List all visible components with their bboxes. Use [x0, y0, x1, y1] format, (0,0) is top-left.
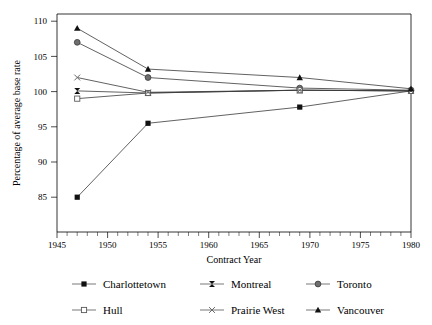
- y-tick-label: 105: [34, 52, 48, 62]
- chart-figure: 110 105 100 95 90 85: [0, 0, 432, 325]
- data-point-open-square: [75, 96, 80, 101]
- series-charlottetown: [75, 88, 414, 200]
- chart-legend: CharlottetownMontrealTorontoHullPrairie …: [72, 278, 384, 316]
- data-point-filled-triangle: [74, 25, 80, 31]
- data-point-filled-square: [297, 104, 302, 109]
- legend-label: Toronto: [337, 278, 372, 290]
- data-point-filled-square: [75, 195, 80, 200]
- x-tick-label: 1975: [351, 240, 370, 250]
- series-toronto: [74, 39, 414, 93]
- x-axis-tick-labels: 1945 1950 1955 1960 1965 1970 1975 1980: [48, 240, 421, 250]
- x-axis-ticks: [57, 232, 411, 238]
- x-tick-label: 1960: [200, 240, 219, 250]
- legend-label: Vancouver: [337, 304, 384, 316]
- data-point-filled-square: [145, 121, 150, 126]
- y-tick-label: 100: [34, 87, 48, 97]
- legend-label: Charlottetown: [103, 278, 166, 290]
- x-tick-label: 1950: [99, 240, 118, 250]
- y-axis-tick-labels: 110 105 100 95 90 85: [34, 16, 48, 202]
- x-tick-label: 1965: [250, 240, 269, 250]
- y-axis-ticks: [51, 21, 57, 197]
- x-tick-label: 1980: [402, 240, 421, 250]
- legend-item-hull[interactable]: Hull: [72, 304, 123, 316]
- data-point-filled-circle: [315, 281, 321, 287]
- data-point-filled-circle: [145, 75, 151, 81]
- data-point-x-cross: [74, 75, 80, 81]
- y-tick-label: 95: [38, 122, 48, 132]
- series-layer: [74, 25, 414, 200]
- data-point-open-square: [81, 307, 86, 312]
- line-chart: 110 105 100 95 90 85: [0, 0, 432, 325]
- legend-label: Prairie West: [231, 304, 285, 316]
- legend-item-charlottetown[interactable]: Charlottetown: [72, 278, 166, 290]
- series-vancouver: [74, 25, 414, 91]
- data-point-filled-circle: [74, 39, 80, 45]
- x-tick-label: 1955: [149, 240, 168, 250]
- plot-axes: [57, 14, 411, 232]
- x-tick-label: 1945: [48, 240, 67, 250]
- legend-item-toronto[interactable]: Toronto: [306, 278, 372, 290]
- y-tick-label: 110: [34, 16, 48, 26]
- x-axis-title: Contract Year: [207, 254, 263, 265]
- y-tick-label: 85: [38, 192, 48, 202]
- legend-item-prairie-west[interactable]: Prairie West: [200, 304, 285, 316]
- legend-item-montreal[interactable]: Montreal: [200, 278, 271, 290]
- y-tick-label: 90: [38, 157, 48, 167]
- y-axis-title: Percentage of average base rate: [11, 59, 22, 186]
- data-point-filled-triangle: [145, 66, 151, 72]
- data-point-filled-square: [81, 281, 86, 286]
- x-tick-label: 1970: [301, 240, 320, 250]
- legend-item-vancouver[interactable]: Vancouver: [306, 304, 384, 316]
- legend-label: Montreal: [231, 278, 271, 290]
- legend-label: Hull: [103, 304, 123, 316]
